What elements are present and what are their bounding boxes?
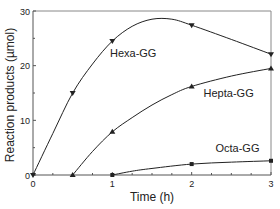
x-tick-label: 2 xyxy=(189,179,194,189)
series-line xyxy=(73,68,271,175)
y-axis-label: Reaction products (µmol) xyxy=(3,28,17,162)
triangle-down-marker-icon xyxy=(268,52,274,57)
reaction-products-chart: 0102030 0123 Hexa-GGHepta-GGOcta-GG Reac… xyxy=(0,0,280,209)
series-label: Hepta-GG xyxy=(204,87,254,99)
triangle-down-marker-icon xyxy=(70,91,76,96)
series-label: Hexa-GG xyxy=(110,47,156,59)
series-label: Octa-GG xyxy=(215,142,259,154)
square-marker-icon xyxy=(110,173,114,177)
series-hepta-gg: Hepta-GG xyxy=(70,65,274,177)
triangle-up-marker-icon xyxy=(268,65,274,70)
y-tick-label: 30 xyxy=(20,7,30,17)
x-tick-label: 0 xyxy=(30,179,35,189)
series-octa-gg: Octa-GG xyxy=(110,142,273,177)
square-marker-icon xyxy=(269,159,273,163)
series-group: Hexa-GGHepta-GGOcta-GG xyxy=(30,18,274,178)
x-axis-label: Time (h) xyxy=(130,190,174,204)
x-tick-label: 1 xyxy=(110,179,115,189)
y-tick-label: 0 xyxy=(25,171,30,181)
x-tick-label: 3 xyxy=(268,179,273,189)
y-tick-label: 20 xyxy=(20,61,30,71)
square-marker-icon xyxy=(190,162,194,166)
y-axis-ticks: 0102030 xyxy=(20,7,36,181)
y-tick-label: 10 xyxy=(20,116,30,126)
